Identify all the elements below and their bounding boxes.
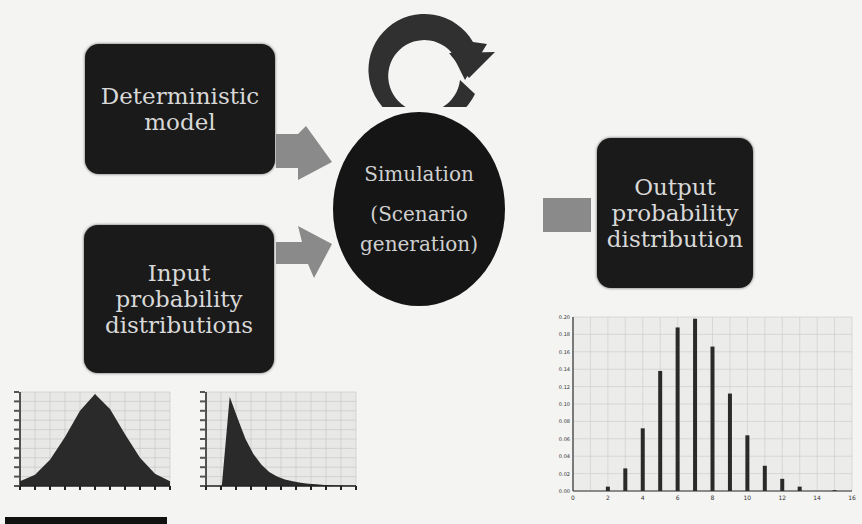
svg-text:2: 2 — [606, 494, 610, 501]
simulation-node: Simulation (Scenario generation) — [333, 112, 505, 306]
svg-text:0.00: 0.00 — [559, 488, 570, 494]
svg-text:16: 16 — [848, 494, 856, 501]
svg-text:8: 8 — [711, 494, 715, 501]
svg-text:14: 14 — [813, 494, 821, 501]
deterministic-model-label: Deterministic model — [85, 83, 275, 135]
svg-text:0.14: 0.14 — [559, 366, 570, 372]
svg-text:0.16: 0.16 — [559, 349, 570, 355]
input-distribution-chart-normal — [4, 386, 174, 494]
arrow-deterministic-to-simulation — [276, 126, 336, 188]
svg-text:0.02: 0.02 — [559, 471, 570, 477]
svg-text:0.12: 0.12 — [559, 384, 570, 390]
input-distributions-label: Input probability distributions — [84, 260, 274, 338]
input-distributions-box: Input probability distributions — [84, 225, 274, 373]
arrow-input-to-simulation — [276, 222, 336, 286]
deterministic-model-box: Deterministic model — [85, 44, 275, 174]
svg-text:4: 4 — [641, 494, 645, 501]
input-distribution-chart-skewed — [190, 386, 360, 494]
svg-text:12: 12 — [778, 494, 786, 501]
simulation-label: Simulation — [364, 159, 474, 189]
loop-arrow-icon — [365, 2, 510, 111]
svg-text:10: 10 — [744, 494, 752, 501]
output-distribution-box: Output probability distribution — [597, 138, 753, 288]
arrow-simulation-to-output — [543, 198, 591, 232]
output-distribution-label: Output probability distribution — [597, 174, 753, 252]
svg-text:0.04: 0.04 — [559, 453, 570, 459]
svg-text:0.06: 0.06 — [559, 436, 570, 442]
svg-text:0.20: 0.20 — [559, 314, 570, 320]
svg-text:0: 0 — [571, 494, 575, 501]
scenario-generation-label: (Scenario generation) — [332, 199, 506, 259]
svg-text:6: 6 — [676, 494, 680, 501]
footer-bar — [5, 517, 167, 524]
svg-text:0.18: 0.18 — [559, 331, 570, 337]
svg-text:0.08: 0.08 — [559, 418, 570, 424]
svg-text:0.10: 0.10 — [559, 401, 570, 407]
output-distribution-chart: 0.000.020.040.060.080.100.120.140.160.18… — [520, 305, 862, 524]
